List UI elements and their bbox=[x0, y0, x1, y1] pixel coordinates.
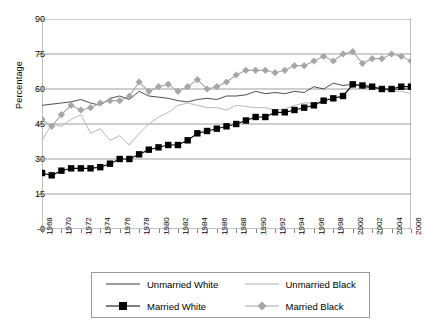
data-point-marker bbox=[97, 99, 104, 106]
x-tick-label: 2006 bbox=[414, 217, 423, 235]
x-axis-tick-mark bbox=[333, 229, 334, 233]
data-point-marker bbox=[330, 57, 337, 64]
data-point-marker bbox=[350, 81, 356, 87]
data-point-marker bbox=[136, 151, 142, 157]
x-axis-tick-mark bbox=[392, 229, 393, 233]
data-point-marker bbox=[252, 67, 259, 74]
data-point-marker bbox=[107, 160, 113, 166]
data-point-marker bbox=[378, 55, 385, 62]
data-point-marker bbox=[282, 109, 288, 115]
legend-line-marker-icon-married-white bbox=[106, 300, 140, 312]
x-axis-tick-mark bbox=[362, 229, 363, 233]
legend-label-married-white: Married White bbox=[147, 301, 206, 312]
data-point-marker bbox=[291, 107, 297, 113]
data-point-marker bbox=[339, 50, 346, 57]
x-axis-tick-mark bbox=[227, 229, 228, 233]
x-axis-tick-mark bbox=[168, 229, 169, 233]
data-point-marker bbox=[243, 117, 249, 123]
series-svg bbox=[42, 19, 411, 229]
data-point-marker bbox=[272, 109, 278, 115]
data-point-marker bbox=[175, 142, 181, 148]
data-point-marker bbox=[407, 57, 411, 64]
series-line-unmarried-black bbox=[42, 84, 411, 145]
x-axis-tick-mark bbox=[246, 229, 247, 233]
data-point-marker bbox=[398, 83, 404, 89]
data-point-marker bbox=[291, 62, 298, 69]
data-point-marker bbox=[262, 114, 268, 120]
data-point-marker bbox=[49, 172, 55, 178]
x-axis-tick-mark bbox=[265, 229, 266, 233]
data-point-marker bbox=[242, 67, 249, 74]
legend-line-icon-unmarried-white bbox=[106, 278, 140, 290]
legend-line-icon-unmarried-black bbox=[245, 278, 279, 290]
data-point-marker bbox=[233, 71, 240, 78]
x-axis-tick-mark bbox=[217, 229, 218, 233]
data-point-marker bbox=[78, 165, 84, 171]
chart-canvas bbox=[42, 19, 411, 229]
data-point-marker bbox=[68, 165, 74, 171]
data-point-marker bbox=[184, 137, 190, 143]
data-point-marker bbox=[155, 144, 161, 150]
legend-item-unmarried-white[interactable]: Unmarried White bbox=[92, 278, 231, 290]
x-axis-tick-mark bbox=[324, 229, 325, 233]
data-point-marker bbox=[252, 114, 258, 120]
x-axis-tick-mark bbox=[285, 229, 286, 233]
x-axis-tick-mark bbox=[304, 229, 305, 233]
data-point-marker bbox=[330, 95, 336, 101]
data-point-marker bbox=[379, 86, 385, 92]
x-axis-tick-mark bbox=[42, 229, 43, 233]
data-point-marker bbox=[369, 55, 376, 62]
x-axis-tick-mark bbox=[159, 229, 160, 233]
x-axis-tick-mark bbox=[81, 229, 82, 233]
data-point-marker bbox=[301, 104, 307, 110]
legend-item-unmarried-black[interactable]: Unmarried Black bbox=[231, 278, 370, 290]
data-point-marker bbox=[97, 164, 103, 170]
x-axis-tick-mark bbox=[110, 229, 111, 233]
x-axis-tick-mark bbox=[188, 229, 189, 233]
legend-item-married-white[interactable]: Married White bbox=[92, 300, 231, 312]
data-point-marker bbox=[42, 170, 45, 176]
legend-label-married-black: Married Black bbox=[286, 301, 344, 312]
data-point-marker bbox=[87, 104, 94, 111]
legend-label-unmarried-white: Unmarried White bbox=[147, 279, 218, 290]
legend-line-marker-icon-married-black bbox=[245, 300, 279, 312]
data-point-marker bbox=[311, 102, 317, 108]
x-axis-tick-mark bbox=[236, 229, 237, 233]
data-point-marker bbox=[281, 67, 288, 74]
data-point-marker bbox=[87, 165, 93, 171]
legend-item-married-black[interactable]: Married Black bbox=[231, 300, 370, 312]
data-point-marker bbox=[408, 83, 411, 89]
data-point-marker bbox=[77, 106, 84, 113]
data-point-marker bbox=[262, 67, 269, 74]
x-axis-tick-mark bbox=[314, 229, 315, 233]
x-axis-tick-mark bbox=[120, 229, 121, 233]
x-axis-tick-mark bbox=[91, 229, 92, 233]
x-axis-tick-mark bbox=[372, 229, 373, 233]
figure: Percentage 0153045607590 196819701972197… bbox=[0, 0, 424, 330]
x-axis-tick-mark bbox=[411, 229, 412, 233]
x-axis-tick-mark bbox=[149, 229, 150, 233]
data-point-marker bbox=[116, 97, 123, 104]
data-point-marker bbox=[369, 83, 375, 89]
x-axis-tick-mark bbox=[129, 229, 130, 233]
x-axis-tick-mark bbox=[343, 229, 344, 233]
x-axis-tick-mark bbox=[197, 229, 198, 233]
plot-area: Percentage 0153045607590 196819701972197… bbox=[0, 0, 424, 245]
data-point-marker bbox=[214, 125, 220, 131]
data-point-marker bbox=[165, 81, 172, 88]
data-point-marker bbox=[223, 78, 230, 85]
data-point-marker bbox=[126, 156, 132, 162]
x-axis-tick-mark bbox=[52, 229, 53, 233]
data-point-marker bbox=[233, 121, 239, 127]
data-point-marker bbox=[194, 130, 200, 136]
data-point-marker bbox=[223, 123, 229, 129]
x-axis-tick-mark bbox=[139, 229, 140, 233]
x-axis-tick-mark bbox=[100, 229, 101, 233]
data-point-marker bbox=[310, 57, 317, 64]
x-axis-tick-mark bbox=[61, 229, 62, 233]
legend-label-unmarried-black: Unmarried Black bbox=[286, 279, 356, 290]
chart-legend: Unmarried White Unmarried Black Married … bbox=[91, 272, 370, 318]
x-axis-tick-mark bbox=[294, 229, 295, 233]
data-point-marker bbox=[388, 50, 395, 57]
x-axis-tick-mark bbox=[382, 229, 383, 233]
